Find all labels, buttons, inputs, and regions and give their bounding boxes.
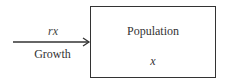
flow-rate: rx xyxy=(38,24,68,39)
flow-label: Growth xyxy=(25,47,80,62)
stock-variable: x xyxy=(143,54,163,69)
stock-title: Population xyxy=(120,24,186,39)
